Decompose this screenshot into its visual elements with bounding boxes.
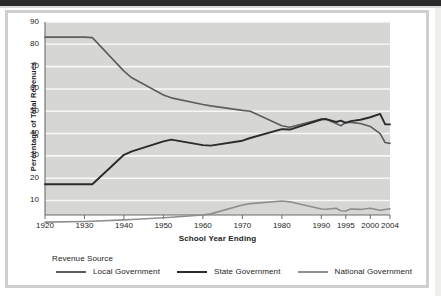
x-tick-label-1930: 1930 (70, 221, 98, 230)
x-tick-label-2004: 2004 (376, 221, 404, 230)
y-tick-label-50: 50 (19, 106, 39, 115)
legend-item-label: Local Government (93, 267, 160, 276)
y-tick-label-90: 90 (19, 17, 39, 26)
legend-line-swatch (56, 271, 86, 273)
x-tick-label-1940: 1940 (110, 221, 138, 230)
y-tick-label-30: 30 (19, 150, 39, 159)
x-tick-label-1950: 1950 (149, 221, 177, 230)
legend-item-label: State Government (214, 267, 281, 276)
y-tick-label-80: 80 (19, 39, 39, 48)
legend-item-national-government[interactable]: National Government (298, 267, 430, 276)
x-tick-label-1960: 1960 (189, 221, 217, 230)
legend-line-swatch (298, 271, 328, 273)
plot-background-group (45, 22, 390, 215)
legend-item-local-government[interactable]: Local Government (56, 267, 177, 276)
x-axis-title: School Year Ending (45, 234, 390, 243)
y-tick-label-10: 10 (19, 195, 39, 204)
chart-container: Percentage of Total Revenues School Year… (0, 0, 441, 298)
y-tick-label-20: 20 (19, 173, 39, 182)
y-tick-label-70: 70 (19, 61, 39, 70)
plot-background (45, 22, 390, 215)
figure-root: Percentage of Total Revenues School Year… (0, 0, 441, 298)
legend-title: Revenue Source (52, 254, 422, 263)
x-tick-label-1920: 1920 (31, 221, 59, 230)
legend-item-state-government[interactable]: State Government (177, 267, 298, 276)
legend-items-row: Local GovernmentState GovernmentNational… (52, 267, 422, 276)
y-tick-label-40: 40 (19, 128, 39, 137)
x-axis-tick-marks (45, 215, 390, 219)
legend: Revenue Source Local GovernmentState Gov… (52, 254, 422, 276)
y-tick-label-60: 60 (19, 83, 39, 92)
x-tick-label-1970: 1970 (228, 221, 256, 230)
legend-item-label: National Government (335, 267, 413, 276)
legend-line-swatch (177, 271, 207, 273)
x-tick-label-1980: 1980 (268, 221, 296, 230)
